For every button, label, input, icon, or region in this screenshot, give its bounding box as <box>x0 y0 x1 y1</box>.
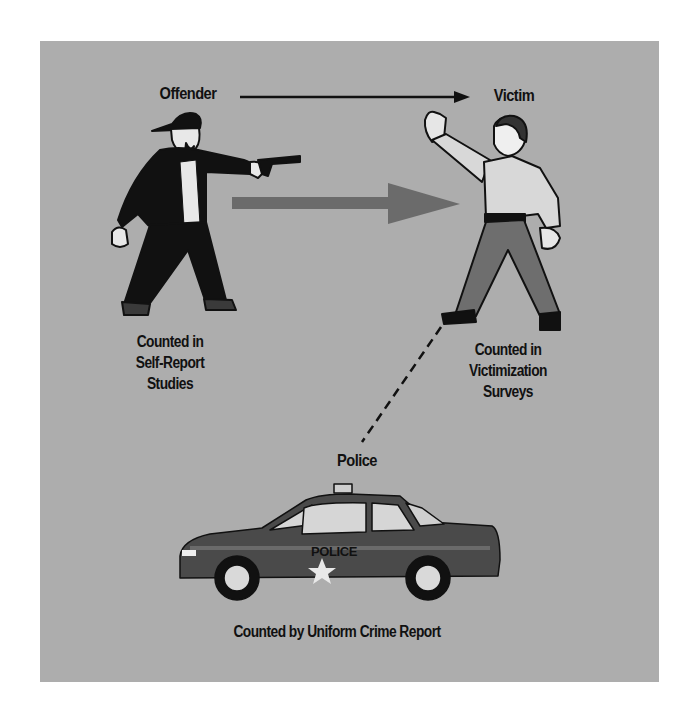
offender-caption-line-3: Studies <box>118 373 221 394</box>
offender-label: Offender <box>138 83 238 104</box>
offender-caption: Counted in Self-Report Studies <box>118 331 221 394</box>
victim-caption-line-1: Counted in <box>452 339 564 360</box>
victim-caption-line-2: Victimization <box>452 360 564 381</box>
victim-label: Victim <box>473 85 556 106</box>
police-caption: Counted by Uniform Crime Report <box>199 621 474 642</box>
victim-caption-line-3: Surveys <box>452 381 564 402</box>
victim-caption: Counted in Victimization Surveys <box>452 339 564 402</box>
victim-to-police-dashed-line <box>362 327 441 442</box>
car-police-text: POLICE <box>311 544 358 559</box>
police-label: Police <box>323 450 392 471</box>
offender-caption-line-2: Self-Report <box>118 352 221 373</box>
offender-figure-icon <box>112 113 300 315</box>
thick-gray-arrow <box>232 183 460 224</box>
offender-caption-line-1: Counted in <box>118 331 221 352</box>
police-car-icon: POLICE <box>180 484 500 600</box>
diagram-artwork: POLICE <box>0 0 694 722</box>
victim-figure-icon <box>425 112 560 330</box>
offender-to-victim-arrow <box>240 91 470 103</box>
